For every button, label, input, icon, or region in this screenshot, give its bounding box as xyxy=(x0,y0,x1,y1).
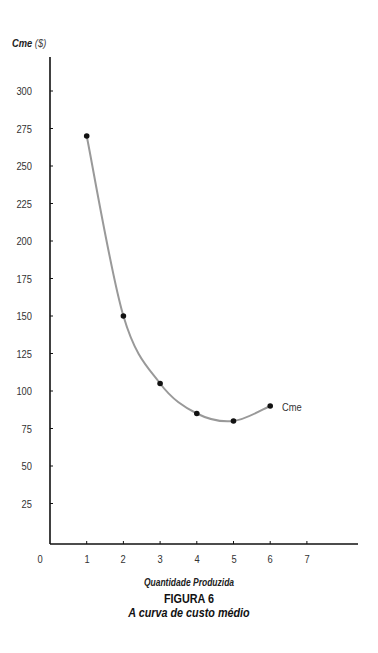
cost-curve xyxy=(87,136,271,421)
figure-title: A curva de custo médio xyxy=(19,606,359,620)
x-tick-label: 3 xyxy=(152,553,169,565)
series-label-cme: Cme xyxy=(282,401,302,413)
y-axis-label-unit: ($) xyxy=(35,37,46,49)
y-tick-label: 125 xyxy=(7,348,33,360)
y-tick-label: 150 xyxy=(7,310,33,322)
y-tick-label: 300 xyxy=(7,85,33,97)
y-tick-label: 75 xyxy=(7,423,33,435)
x-tick-label: 2 xyxy=(115,553,132,565)
data-point-marker xyxy=(267,403,273,409)
x-tick-label: 4 xyxy=(188,553,205,565)
y-axis-label-main: Cme xyxy=(12,37,32,49)
data-point-marker xyxy=(231,418,237,424)
x-axis-label: Quantidade Produzida xyxy=(28,577,349,588)
cme-curve-line xyxy=(87,136,271,421)
y-tick-label: 225 xyxy=(7,198,33,210)
data-points xyxy=(84,133,273,424)
y-axis-label: Cme ($) xyxy=(12,37,46,49)
y-tick-label: 50 xyxy=(7,460,33,472)
y-tick-label: 100 xyxy=(7,385,33,397)
data-point-marker xyxy=(121,313,127,319)
x-tick-label: 5 xyxy=(225,553,242,565)
data-point-marker xyxy=(84,133,90,139)
y-tick-label: 275 xyxy=(7,123,33,135)
data-point-marker xyxy=(157,381,163,387)
x-tick-label: 6 xyxy=(262,553,279,565)
y-tick-label: 200 xyxy=(7,235,33,247)
y-tick-label: 175 xyxy=(7,273,33,285)
y-tick-label: 25 xyxy=(7,498,33,510)
x-tick-label: 1 xyxy=(78,553,95,565)
data-point-marker xyxy=(194,411,200,417)
x-tick-label: 7 xyxy=(298,553,315,565)
x-tick-label: 0 xyxy=(32,553,49,565)
figure-number: FIGURA 6 xyxy=(19,592,359,606)
axes xyxy=(50,57,358,544)
y-tick-label: 250 xyxy=(7,160,33,172)
